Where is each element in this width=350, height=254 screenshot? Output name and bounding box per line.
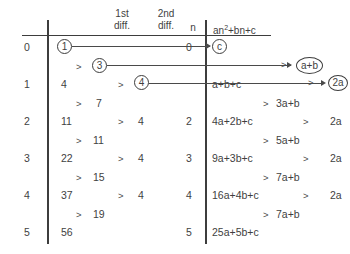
left-first-difference-4: 19 — [93, 208, 105, 220]
left-header-first-diff-line2: diff. — [104, 20, 140, 31]
left-first-difference-3: 15 — [93, 171, 105, 183]
left-header-first-diff-line1: 1st — [104, 8, 140, 19]
right-circled-first-difference: a+b — [296, 57, 323, 74]
left-comparator-second-diff-2: > — [118, 154, 124, 164]
right-comparator-second-diff-2: > — [303, 154, 309, 164]
right-expression-1: a+b+c — [212, 78, 241, 90]
right-first-difference-2: 5a+b — [276, 134, 300, 146]
left-n-value-0: 0 — [24, 41, 30, 53]
right-second-difference-1: 2a — [330, 115, 342, 127]
left-circled-first-difference: 3 — [92, 58, 107, 73]
right-comparator-first-diff-1: > — [263, 99, 269, 109]
right-expression-4: 16a+4b+c — [212, 189, 259, 201]
left-n-value-1: 1 — [24, 78, 30, 90]
left-comparator-second-diff-1: > — [118, 117, 124, 127]
left-comparator-first-diff-1: > — [76, 99, 82, 109]
right-n-value-4: 4 — [186, 189, 192, 201]
left-header-second-diff-line2: diff. — [148, 20, 184, 31]
left-n-value-2: 2 — [24, 115, 30, 127]
left-comparator-first-diff-0: > — [76, 62, 82, 72]
right-n-value-2: 2 — [186, 115, 192, 127]
right-expression-3: 9a+3b+c — [212, 152, 253, 164]
left-second-difference-3: 4 — [138, 189, 144, 201]
right-header-n: n — [186, 22, 200, 33]
difference-table-diagram: 1st diff. 2nd diff. 0 1 2 3 4 5 1 4 11 2… — [0, 0, 350, 254]
right-comparator-second-diff-1: > — [303, 117, 309, 127]
left-circled-second-difference: 4 — [134, 75, 149, 90]
right-comparator-first-diff-2: > — [263, 136, 269, 146]
mapping-arrow-head-first-difference — [287, 62, 292, 68]
left-comparator-first-diff-4: > — [76, 210, 82, 220]
left-sequence-value-5: 56 — [61, 226, 73, 238]
left-n-value-3: 3 — [24, 152, 30, 164]
right-header-underline — [182, 35, 271, 36]
right-n-value-5: 5 — [186, 226, 192, 238]
left-first-difference-2: 11 — [93, 134, 104, 146]
left-vertical-divider — [47, 20, 49, 244]
right-first-difference-4: 7a+b — [276, 208, 300, 220]
left-comparator-second-diff-3: > — [118, 191, 124, 201]
right-expression-5: 25a+5b+c — [212, 226, 259, 238]
right-comparator-first-diff-4: > — [263, 210, 269, 220]
right-n-value-0: 0 — [186, 41, 192, 53]
right-comparator-second-diff-3: > — [303, 191, 309, 201]
right-n-value-3: 3 — [186, 152, 192, 164]
left-sequence-value-3: 22 — [61, 152, 73, 164]
right-first-difference-1: 3a+b — [276, 97, 300, 109]
mapping-arrow-line-constant — [72, 46, 210, 47]
mapping-arrow-head-constant — [206, 43, 211, 49]
left-sequence-value-2: 11 — [61, 115, 72, 127]
left-n-value-5: 5 — [24, 226, 30, 238]
right-second-difference-3: 2a — [330, 189, 342, 201]
right-vertical-divider — [205, 20, 207, 244]
left-first-difference-1: 7 — [96, 97, 102, 109]
right-circled-constant-term: c — [212, 39, 227, 54]
mapping-arrow-line-second-difference — [149, 83, 324, 84]
left-comparator-second-diff-0: > — [118, 80, 124, 90]
left-circled-first-term: 1 — [57, 39, 72, 54]
left-sequence-value-1: 4 — [61, 78, 67, 90]
right-second-difference-2: 2a — [330, 152, 342, 164]
left-comparator-first-diff-3: > — [76, 173, 82, 183]
left-second-difference-2: 4 — [138, 152, 144, 164]
left-second-difference-1: 4 — [138, 115, 144, 127]
left-header-second-diff-line1: 2nd — [148, 8, 184, 19]
mapping-arrow-line-first-difference — [107, 65, 291, 66]
right-first-difference-3: 7a+b — [276, 171, 300, 183]
left-n-value-4: 4 — [24, 189, 30, 201]
mapping-arrow-head-second-difference — [321, 80, 326, 86]
left-sequence-value-4: 37 — [61, 189, 73, 201]
mapping-arrow-tick-second-difference: > — [308, 78, 314, 88]
mapping-arrow-tick-first-difference: > — [281, 60, 287, 70]
right-circled-second-difference: 2a — [328, 75, 348, 91]
right-expression-2: 4a+2b+c — [212, 115, 253, 127]
right-comparator-first-diff-3: > — [263, 173, 269, 183]
left-comparator-first-diff-2: > — [76, 136, 82, 146]
